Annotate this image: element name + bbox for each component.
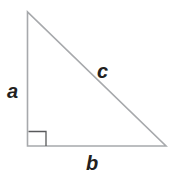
label-side-a: a <box>7 80 18 102</box>
right-angle-marker <box>29 132 47 147</box>
right-triangle-diagram: a c b <box>0 0 176 175</box>
label-side-c: c <box>97 60 108 82</box>
label-side-b: b <box>86 152 98 174</box>
